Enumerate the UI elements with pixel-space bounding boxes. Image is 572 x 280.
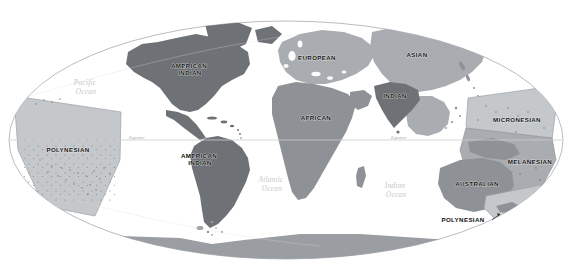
group-label-european: EUROPEAN (298, 54, 336, 61)
ocean-label-atlantic: Atlantic Ocean (257, 175, 285, 193)
group-label-asian: ASIAN (406, 51, 427, 58)
group-label-polynesian-southwest: POLYNESIAN (441, 216, 484, 223)
group-label-australian: AUSTRALIAN (455, 180, 499, 187)
group-label-micronesian: MICRONESIAN (493, 116, 541, 123)
world-map-svg: Pacific Ocean Atlantic Ocean Indian Ocea… (0, 0, 572, 280)
group-label-polynesian-east: POLYNESIAN (46, 146, 89, 153)
ocean-label-indian: Indian Ocean (384, 181, 408, 199)
equator-label-right: Equator (390, 135, 407, 140)
world-map-figure: Pacific Ocean Atlantic Ocean Indian Ocea… (0, 0, 572, 280)
ocean-label-pacific: Pacific Ocean (73, 78, 98, 96)
group-label-african: AFRICAN (301, 114, 331, 121)
equator-label-left: Equator (128, 135, 145, 140)
group-label-indian: INDIAN (383, 92, 407, 99)
group-label-melanesian: MELANESIAN (508, 158, 553, 165)
